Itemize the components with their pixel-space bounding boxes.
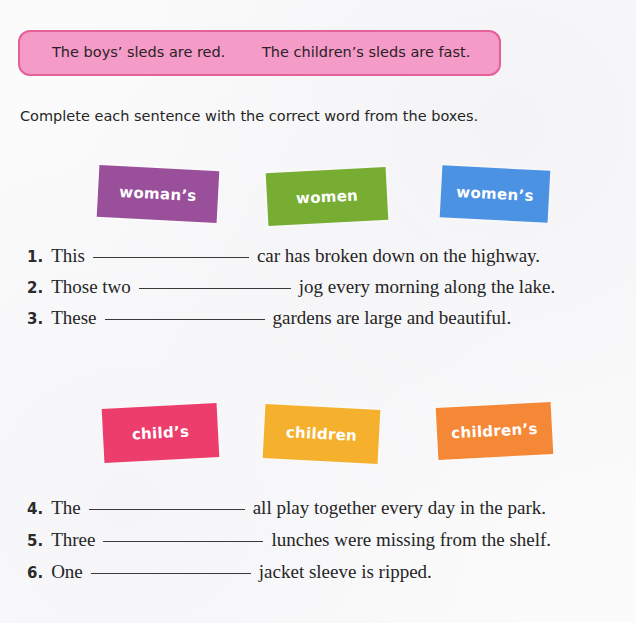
exercise-4: 4. The all play together every day in th… [27,497,546,519]
answer-blank-6[interactable] [91,572,251,574]
example-box: The boys’ sleds are red. The children’s … [18,30,501,76]
word-card-womens[interactable]: women’s [440,165,551,223]
exercise-text-before: The [51,497,81,519]
exercise-text-after: all play together every day in the park. [253,497,546,519]
exercise-text-after: car has broken down on the highway. [257,245,540,267]
exercise-text-after: lunches were missing from the shelf. [271,529,551,551]
exercise-number: 2. [27,279,43,297]
exercise-1: 1. This car has broken down on the highw… [27,245,540,267]
word-card-label: children’s [451,420,538,443]
word-card-women[interactable]: women [266,167,389,226]
word-card-womans[interactable]: woman’s [97,165,220,223]
exercise-3: 3. These gardens are large and beautiful… [27,307,511,329]
exercise-text-after: gardens are large and beautiful. [273,307,512,329]
answer-blank-5[interactable] [103,540,263,542]
exercise-number: 4. [27,500,43,518]
answer-blank-2[interactable] [139,287,291,289]
exercise-5: 5. Three lunches were missing from the s… [27,529,551,551]
exercise-text-after: jog every morning along the lake. [299,276,555,298]
exercise-number: 3. [27,310,43,328]
exercise-text-after: jacket sleeve is ripped. [259,561,432,583]
word-card-label: women [295,186,358,207]
word-card-label: woman’s [119,183,197,205]
example-sentence-2: The children’s sleds are fast. [262,44,470,60]
exercise-6: 6. One jacket sleeve is ripped. [27,561,432,583]
exercise-text-before: One [51,561,83,583]
answer-blank-1[interactable] [93,256,249,258]
exercise-2: 2. Those two jog every morning along the… [27,276,555,298]
word-card-children[interactable]: children [263,404,381,464]
exercise-text-before: This [51,245,85,267]
example-sentence-1: The boys’ sleds are red. [52,44,225,60]
instruction-text: Complete each sentence with the correct … [20,108,478,124]
exercise-text-before: Those two [51,276,131,298]
exercise-text-before: Three [51,529,95,551]
exercise-text-before: These [51,307,96,329]
word-card-childrens[interactable]: children’s [436,402,554,460]
word-card-label: children [285,423,357,445]
word-card-childs[interactable]: child’s [102,403,220,463]
answer-blank-4[interactable] [89,508,245,510]
word-card-label: women’s [456,183,534,205]
answer-blank-3[interactable] [105,318,265,320]
exercise-number: 1. [27,248,43,266]
word-card-label: child’s [131,423,189,444]
exercise-number: 5. [27,532,43,550]
exercise-number: 6. [27,564,43,582]
